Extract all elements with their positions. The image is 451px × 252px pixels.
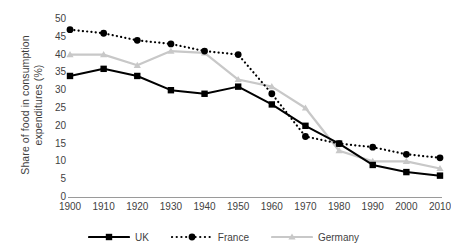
legend-swatch-square-icon [88,231,130,243]
chart-legend: UKFranceGermany [0,228,447,246]
x-axis-tick: 2000 [395,201,417,213]
x-axis-tick: 1950 [227,201,249,213]
data-point-marker [403,151,410,158]
data-point-marker [100,66,106,72]
y-axis-tick: 10 [44,156,66,166]
data-point-marker [106,234,112,240]
data-point-marker [268,90,275,97]
data-point-marker [369,144,376,151]
data-point-marker [302,133,309,140]
y-axis-tick: 30 [44,85,66,95]
x-axis-tick: 1920 [126,201,148,213]
series-germany [66,47,443,171]
plot-area [70,19,440,197]
y-axis-tick: 5 [44,174,66,184]
data-point-marker [168,41,175,48]
legend-item-germany[interactable]: Germany [271,231,359,243]
data-point-marker [437,172,443,178]
y-axis-tick: 20 [44,121,66,131]
x-axis-tick: 2010 [429,201,451,213]
y-axis-tick-labels: 05101520253035404550 [44,12,66,198]
y-axis-title-line2: expenditures (%) [32,65,44,146]
legend-swatch-circle-icon [171,231,213,243]
data-point-marker [302,123,308,129]
data-point-marker [201,91,207,97]
data-point-marker [134,73,140,79]
data-point-marker [269,101,275,107]
data-point-marker [437,154,444,161]
legend-label: Germany [318,232,359,243]
data-point-marker [235,83,241,89]
y-axis-tick: 25 [44,103,66,113]
y-axis-tick: 50 [44,14,66,24]
series-line [70,30,440,158]
x-axis-line [68,197,442,198]
data-point-marker [168,87,174,93]
data-point-marker [403,169,409,175]
legend-swatch-triangle-icon [271,231,313,243]
series-lines [70,19,440,197]
series-line [70,69,440,176]
legend-label: UK [135,232,149,243]
y-axis-tick: 40 [44,50,66,60]
y-axis-tick: 15 [44,139,66,149]
legend-label: France [218,232,249,243]
data-point-marker [336,140,343,147]
x-axis-tick-labels: 1900191019201930194019501960197019801990… [70,201,440,217]
data-point-marker [67,73,73,79]
data-point-marker [134,37,141,44]
series-france [67,26,444,161]
x-axis-tick: 1990 [362,201,384,213]
data-point-marker [100,30,107,37]
x-axis-tick: 1940 [193,201,215,213]
x-axis-tick: 1910 [93,201,115,213]
data-point-marker [188,234,195,241]
data-point-marker [67,26,74,33]
y-axis-tick: 45 [44,32,66,42]
data-point-marker [201,48,208,55]
x-axis-tick: 1900 [59,201,81,213]
data-point-marker [235,51,242,58]
x-axis-tick: 1960 [261,201,283,213]
x-axis-tick: 1970 [294,201,316,213]
y-axis-title-line1: Share of food in consumption [19,35,31,174]
legend-item-france[interactable]: France [171,231,249,243]
x-axis-tick: 1930 [160,201,182,213]
x-axis-tick: 1980 [328,201,350,213]
legend-item-uk[interactable]: UK [88,231,149,243]
data-point-marker [370,162,376,168]
y-axis-tick: 35 [44,67,66,77]
series-line [70,51,440,168]
